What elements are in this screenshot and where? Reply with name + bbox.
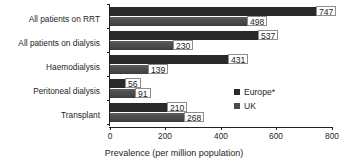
- value-label-europe-all-patients-on-dialysis: 537: [258, 30, 278, 40]
- category-label-haemodialysis: Haemodialysis: [0, 63, 100, 72]
- category-label-all-patients-on-dialysis: All patients on dialysis: [0, 39, 100, 48]
- bar-europe-transplant: [110, 103, 168, 112]
- bar-group-all-patients-on-dialysis: 537 230: [110, 30, 332, 52]
- x-axis-tick-label-400: 400: [214, 131, 228, 141]
- y-axis-tick: [107, 100, 110, 101]
- x-axis-tick: [276, 127, 277, 130]
- value-label-europe-haemodialysis: 431: [228, 54, 248, 64]
- category-label-transplant: Transplant: [0, 111, 100, 120]
- x-axis-tick-label-600: 600: [269, 131, 283, 141]
- value-label-uk-transplant: 268: [184, 112, 204, 122]
- legend-label-uk: UK: [244, 102, 256, 111]
- value-label-uk-all-patients-on-rrt: 498: [247, 16, 267, 26]
- y-axis-tick: [107, 28, 110, 29]
- x-axis-tick-label-800: 800: [325, 131, 339, 141]
- bar-uk-haemodialysis: [110, 65, 149, 74]
- bar-uk-peritoneal-dialysis: [110, 89, 135, 98]
- y-axis-tick: [107, 4, 110, 5]
- bar-europe-all-patients-on-rrt: [110, 7, 317, 16]
- plot-area: 747 498 537 230 431 139 56 91 21: [110, 6, 332, 124]
- bar-uk-all-patients-on-rrt: [110, 17, 248, 26]
- bar-europe-haemodialysis: [110, 55, 230, 64]
- chart-legend: Europe* UK: [234, 86, 275, 114]
- x-axis-tick: [110, 127, 111, 130]
- category-label-all-patients-on-rrt: All patients on RRT: [0, 15, 100, 24]
- legend-label-europe: Europe*: [244, 88, 275, 97]
- category-axis-labels: All patients on RRT All patients on dial…: [0, 6, 104, 124]
- value-label-europe-all-patients-on-rrt: 747: [316, 6, 336, 16]
- legend-swatch-icon-europe: [234, 89, 240, 95]
- legend-swatch-icon-uk: [234, 103, 240, 109]
- value-label-europe-peritoneal-dialysis: 56: [125, 78, 141, 88]
- bar-europe-all-patients-on-dialysis: [110, 31, 259, 40]
- bar-group-transplant: 210 268: [110, 102, 332, 124]
- category-label-peritoneal-dialysis: Peritoneal dialysis: [0, 87, 100, 96]
- legend-item-uk: UK: [234, 100, 275, 112]
- bar-uk-transplant: [110, 113, 184, 122]
- bar-chart: All patients on RRT All patients on dial…: [0, 0, 348, 166]
- x-axis-title: Prevalence (per million population): [0, 148, 348, 158]
- legend-item-europe: Europe*: [234, 86, 275, 98]
- x-axis-tick: [221, 127, 222, 130]
- value-label-uk-all-patients-on-dialysis: 230: [173, 40, 193, 50]
- x-axis-tick: [332, 127, 333, 130]
- bar-group-haemodialysis: 431 139: [110, 54, 332, 76]
- x-axis-tick: [165, 127, 166, 130]
- y-axis-tick: [107, 124, 110, 125]
- x-axis-tick-label-0: 0: [108, 131, 113, 141]
- value-label-uk-haemodialysis: 139: [148, 64, 168, 74]
- value-label-europe-transplant: 210: [167, 102, 187, 112]
- x-axis-tick-label-200: 200: [158, 131, 172, 141]
- value-label-uk-peritoneal-dialysis: 91: [135, 88, 151, 98]
- bar-uk-all-patients-on-dialysis: [110, 41, 174, 50]
- bar-group-all-patients-on-rrt: 747 498: [110, 6, 332, 28]
- bar-group-peritoneal-dialysis: 56 91: [110, 78, 332, 100]
- y-axis-tick: [107, 52, 110, 53]
- bar-europe-peritoneal-dialysis: [110, 79, 126, 88]
- y-axis-tick: [107, 76, 110, 77]
